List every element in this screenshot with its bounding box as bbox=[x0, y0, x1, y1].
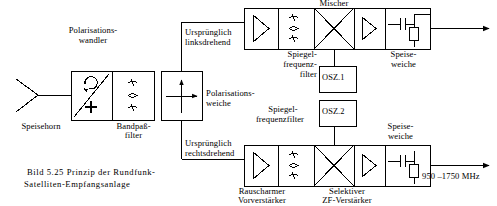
ursprunglich-linksdrehend-label-line1: Ursprünglich bbox=[184, 28, 233, 37]
osz2-label: OSZ.2 bbox=[322, 107, 345, 116]
selektiver-zf-verstarker-label-line2: ZF-Verstärker bbox=[307, 196, 387, 205]
ursprunglich-rechtsdrehend-label-line1: Ursprünglich bbox=[184, 139, 233, 148]
figure-caption-line2: Satelliten-Empfangsanlage bbox=[24, 180, 130, 189]
polarisationswandler-block bbox=[71, 71, 112, 120]
polarisationswandler-label-line2: wandler bbox=[47, 36, 139, 45]
spiegelfrequenzfilter-bottom-label-line1: Spiegel- bbox=[249, 105, 317, 114]
polarisationsweiche-label-line2: weiche bbox=[206, 99, 231, 108]
output-frequency-label: 950 –1750 MHz bbox=[422, 172, 480, 181]
bandpassfilter-label-line2: filter bbox=[104, 131, 163, 140]
speisehorn-label: Speisehorn bbox=[8, 122, 74, 131]
polarisationsweiche-block bbox=[161, 71, 202, 120]
speiseweiche-top-label-line1: Speise- bbox=[375, 50, 432, 59]
bandpassfilter-block bbox=[112, 71, 154, 120]
speiseweiche-bottom-label-line1: Speise- bbox=[372, 122, 429, 131]
ursprunglich-linksdrehend-label-line2: linksdrehend bbox=[184, 38, 232, 47]
spiegelfrequenzfilter-top-label-line1: Spiegel- bbox=[252, 50, 317, 59]
figure-caption-line1: Bild 5.25 Prinzip der Rundfunk- bbox=[27, 168, 156, 177]
speisehorn-symbol bbox=[16, 79, 71, 112]
mischer-label: Mischer bbox=[302, 0, 366, 8]
osz1-block bbox=[319, 49, 356, 92]
rauscharmer-vorverstarker-label-line2: Vorverstärker bbox=[221, 196, 303, 205]
spiegelfrequenzfilter-bottom-label-line2: frequenzfilter bbox=[243, 115, 317, 124]
top-signal-chain bbox=[244, 8, 489, 49]
spiegelfrequenzfilter-top-label-line2: frequenz- bbox=[252, 60, 317, 69]
polarisationsweiche-label-line1: Polarisations- bbox=[206, 89, 255, 98]
polarisationswandler-label-line1: Polarisations- bbox=[47, 26, 139, 35]
speiseweiche-top-label-line2: weiche bbox=[375, 60, 432, 69]
osz1-label: OSZ.1 bbox=[322, 73, 345, 82]
speiseweiche-bottom-label-line2: weiche bbox=[372, 132, 429, 141]
spiegelfrequenzfilter-top-label-line3: filter bbox=[252, 70, 317, 79]
ursprunglich-rechtsdrehend-label-line2: rechtsdrehend bbox=[184, 149, 236, 158]
